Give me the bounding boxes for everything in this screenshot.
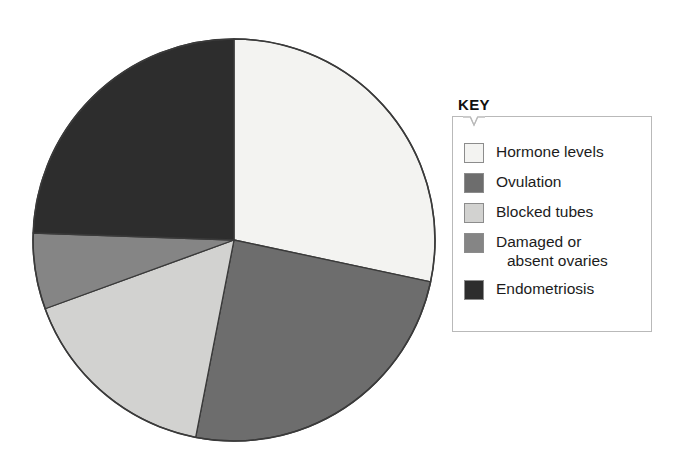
legend-swatch bbox=[464, 233, 484, 253]
legend-notch-icon bbox=[462, 116, 486, 127]
legend-swatch bbox=[464, 173, 484, 193]
legend: KEY Hormone levelsOvulationBlocked tubes… bbox=[452, 96, 652, 332]
legend-item-label: Blocked tubes bbox=[496, 202, 593, 221]
legend-item-label: Ovulation bbox=[496, 172, 561, 191]
pie-chart-figure bbox=[0, 0, 460, 461]
legend-swatch bbox=[464, 143, 484, 163]
legend-item: Damaged orabsent ovaries bbox=[464, 232, 641, 270]
legend-item: Ovulation bbox=[464, 172, 641, 193]
pie-chart-svg bbox=[0, 0, 460, 461]
legend-item-label: Damaged orabsent ovaries bbox=[496, 232, 608, 270]
pie-slice bbox=[234, 39, 435, 282]
legend-swatch bbox=[464, 203, 484, 223]
legend-items: Hormone levelsOvulationBlocked tubesDama… bbox=[464, 142, 641, 300]
legend-box: Hormone levelsOvulationBlocked tubesDama… bbox=[452, 116, 652, 332]
legend-item: Blocked tubes bbox=[464, 202, 641, 223]
legend-item: Endometriosis bbox=[464, 279, 641, 300]
legend-title: KEY bbox=[458, 96, 652, 114]
legend-item-label: Hormone levels bbox=[496, 142, 604, 161]
legend-item-label: Endometriosis bbox=[496, 279, 594, 298]
pie-slices bbox=[33, 39, 435, 441]
legend-item-label-line2: absent ovaries bbox=[496, 251, 608, 270]
pie-slice bbox=[33, 39, 234, 240]
legend-swatch bbox=[464, 280, 484, 300]
legend-item: Hormone levels bbox=[464, 142, 641, 163]
